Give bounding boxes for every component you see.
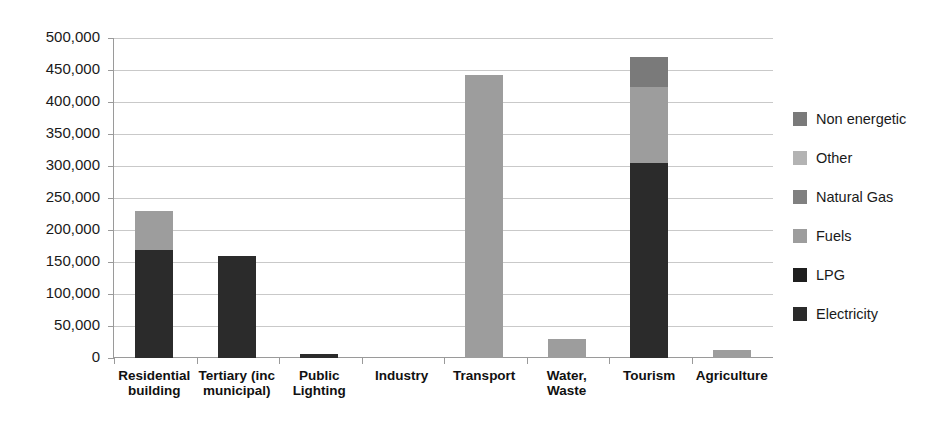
bar-segment-electricity[interactable] xyxy=(630,163,668,358)
gridline xyxy=(114,166,773,167)
x-axis-tick-mark xyxy=(692,358,693,364)
y-axis-tick-label: 450,000 xyxy=(0,60,100,77)
gridline xyxy=(114,294,773,295)
bar-segment-electricity[interactable] xyxy=(135,250,173,358)
gridline xyxy=(114,70,773,71)
y-axis-tick-label: 350,000 xyxy=(0,124,100,141)
x-axis-tick-mark xyxy=(114,358,115,364)
y-axis-tick-label: 500,000 xyxy=(0,28,100,45)
bar-segment-fuels[interactable] xyxy=(465,75,503,358)
bar-transport[interactable] xyxy=(465,75,503,358)
bar-segment-electricity[interactable] xyxy=(300,354,338,358)
legend-item-fuels[interactable]: Fuels xyxy=(793,216,943,255)
legend-item-other[interactable]: Other xyxy=(793,138,943,177)
legend-item-lpg[interactable]: LPG xyxy=(793,255,943,294)
bar-segment-fuels[interactable] xyxy=(713,350,751,358)
legend-item-non-energetic[interactable]: Non energetic xyxy=(793,99,943,138)
bar-segment-fuels[interactable] xyxy=(548,339,586,358)
legend-swatch-icon xyxy=(793,307,807,321)
gridline xyxy=(114,134,773,135)
legend-item-label: Electricity xyxy=(816,306,878,322)
chart-legend: Non energeticOtherNatural GasFuelsLPGEle… xyxy=(793,99,943,333)
y-axis-tick-label: 0 xyxy=(0,348,100,365)
legend-item-label: Natural Gas xyxy=(816,189,893,205)
y-axis-tick-mark xyxy=(108,102,114,103)
y-axis-tick-label: 400,000 xyxy=(0,92,100,109)
x-axis-tick-mark xyxy=(609,358,610,364)
bar-residential-building[interactable] xyxy=(135,211,173,358)
y-axis-tick-mark xyxy=(108,166,114,167)
bar-chart: 050,000100,000150,000200,000250,000300,0… xyxy=(0,0,943,430)
bar-agriculture[interactable] xyxy=(713,350,751,358)
y-axis-tick-mark xyxy=(108,198,114,199)
bar-tertiary-inc-municipal[interactable] xyxy=(218,256,256,358)
y-axis-tick-mark xyxy=(108,134,114,135)
x-axis-tick-mark xyxy=(527,358,528,364)
legend-swatch-icon xyxy=(793,112,807,126)
x-axis-tick-label: Tourism xyxy=(608,368,691,383)
y-axis-tick-label: 250,000 xyxy=(0,188,100,205)
bar-tourism[interactable] xyxy=(630,57,668,358)
legend-swatch-icon xyxy=(793,151,807,165)
gridline xyxy=(114,38,773,39)
legend-item-label: Non energetic xyxy=(816,111,906,127)
y-axis-tick-mark xyxy=(108,38,114,39)
y-axis-tick-label: 100,000 xyxy=(0,284,100,301)
bar-segment-fuels[interactable] xyxy=(630,87,668,163)
bar-segment-non-energetic[interactable] xyxy=(630,57,668,87)
gridline xyxy=(114,262,773,263)
gridline xyxy=(114,326,773,327)
plot-area xyxy=(113,38,773,358)
legend-item-label: Other xyxy=(816,150,852,166)
x-axis-tick-label: Transport xyxy=(443,368,526,383)
bar-segment-fuels[interactable] xyxy=(135,211,173,251)
legend-item-natural-gas[interactable]: Natural Gas xyxy=(793,177,943,216)
legend-item-label: Fuels xyxy=(816,228,851,244)
y-axis-tick-mark xyxy=(108,262,114,263)
gridline xyxy=(114,230,773,231)
bar-water-waste[interactable] xyxy=(548,339,586,358)
y-axis-tick-mark xyxy=(108,294,114,295)
x-axis-tick-mark xyxy=(362,358,363,364)
legend-swatch-icon xyxy=(793,229,807,243)
legend-swatch-icon xyxy=(793,268,807,282)
legend-item-label: LPG xyxy=(816,267,845,283)
y-axis-tick-mark xyxy=(108,230,114,231)
bar-public-lighting[interactable] xyxy=(300,354,338,358)
bar-segment-electricity[interactable] xyxy=(218,256,256,358)
y-axis-tick-label: 150,000 xyxy=(0,252,100,269)
x-axis-tick-label: Tertiary (inc municipal) xyxy=(196,368,279,398)
x-axis-tick-label: Agriculture xyxy=(691,368,774,383)
y-axis-tick-mark xyxy=(108,70,114,71)
legend-item-electricity[interactable]: Electricity xyxy=(793,294,943,333)
x-axis-tick-label: Public Lighting xyxy=(278,368,361,398)
x-axis-tick-mark xyxy=(444,358,445,364)
y-axis-tick-mark xyxy=(108,326,114,327)
x-axis-tick-label: Industry xyxy=(361,368,444,383)
gridline xyxy=(114,102,773,103)
x-axis-tick-label: Residential building xyxy=(113,368,196,398)
y-axis-tick-label: 50,000 xyxy=(0,316,100,333)
x-axis-tick-label: Water, Waste xyxy=(526,368,609,398)
x-axis-tick-mark xyxy=(279,358,280,364)
y-axis-tick-label: 200,000 xyxy=(0,220,100,237)
y-axis-tick-label: 300,000 xyxy=(0,156,100,173)
gridline xyxy=(114,198,773,199)
legend-swatch-icon xyxy=(793,190,807,204)
x-axis-tick-mark xyxy=(197,358,198,364)
